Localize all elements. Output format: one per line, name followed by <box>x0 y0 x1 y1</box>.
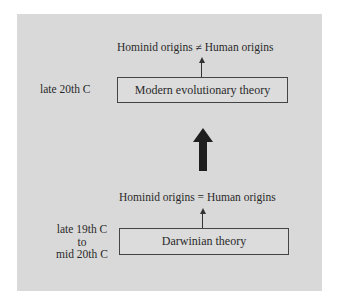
lower-small-arrow-shaft <box>202 213 203 228</box>
lower-era-line-1: late 19th C <box>53 223 111 236</box>
upper-small-arrowhead-icon <box>199 57 205 63</box>
big-up-arrow-shaft-icon <box>199 142 207 171</box>
upper-era-label: late 20th C <box>40 83 90 96</box>
upper-small-arrow-shaft <box>201 62 202 77</box>
big-up-arrowhead-icon <box>193 128 213 142</box>
modern-evolutionary-theory-box: Modern evolutionary theory <box>117 77 288 103</box>
lower-era-line-3: mid 20th C <box>53 248 111 261</box>
darwinian-theory-box: Darwinian theory <box>119 228 289 255</box>
lower-statement: Hominid origins = Human origins <box>119 191 276 203</box>
lower-small-arrowhead-icon <box>200 208 206 214</box>
upper-statement: Hominid origins ≠ Human origins <box>117 41 273 53</box>
lower-era-line-2: to <box>53 236 111 249</box>
lower-era-label: late 19th C to mid 20th C <box>53 223 111 261</box>
